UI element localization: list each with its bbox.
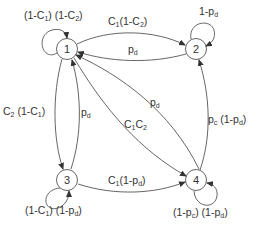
- label-self-3: (1-C1) (1-pd): [25, 205, 82, 217]
- label-edge-2-1: pd: [128, 44, 138, 56]
- edge-4-2: [199, 60, 208, 170]
- label-edge-1-3: C2 (1-C1): [3, 106, 45, 118]
- label-edge-1-2: C1(1-C2): [108, 16, 147, 28]
- node-4-label: 4: [186, 175, 206, 186]
- edge-3-1: [71, 60, 79, 169]
- node-2-label: 2: [186, 44, 206, 55]
- node-1-label: 1: [57, 44, 77, 55]
- label-edge-1-4: C1C2: [124, 119, 147, 131]
- label-edge-3-4: C1(1-pd): [108, 175, 146, 187]
- label-self-1: (1-C1) (1-C2): [24, 10, 83, 22]
- edge-1-3: [55, 59, 63, 169]
- label-edge-3-1: pd: [81, 107, 91, 119]
- node-3-label: 3: [57, 175, 77, 186]
- label-edge-4-2: pc (1-pd): [208, 114, 246, 126]
- edge-4-1: [76, 55, 199, 169]
- edge-4-4: [194, 183, 217, 205]
- label-self-2: 1-pd: [199, 6, 218, 18]
- label-edge-4-1: pd: [150, 97, 160, 109]
- label-self-4: (1-pc) (1-pd): [173, 207, 228, 219]
